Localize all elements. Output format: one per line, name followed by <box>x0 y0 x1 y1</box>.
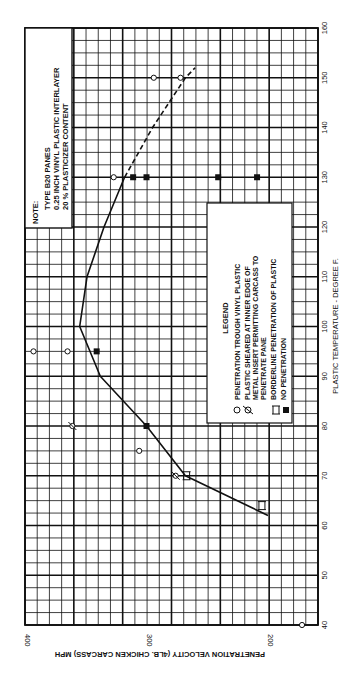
temperature-tick: 120 <box>320 221 329 234</box>
temperature-tick: 110 <box>320 271 329 283</box>
open-circle-point <box>65 349 70 354</box>
note-title: NOTE: <box>31 201 40 224</box>
legend-entry-1: PENETRATION TROUGH VINYL PLASTIC <box>234 264 241 400</box>
y-axis-label: PENETRATION VELOCITY (4LB. CHICKEN CARCA… <box>55 650 265 659</box>
temperature-tick: 160 <box>320 22 329 35</box>
filled-square-point <box>144 174 150 180</box>
note-line-3: 20 % PLASTICIZER CONTENT <box>61 103 70 210</box>
open-circle-point <box>151 75 156 80</box>
legend-title: LEGEND <box>221 302 230 334</box>
filled-square-point <box>94 348 100 354</box>
open-circle-point <box>31 349 36 354</box>
temperature-tick: 60 <box>320 521 329 529</box>
velocity-tick-labels: 200300400 <box>23 634 275 647</box>
note-line-1: TYPE B20 PANES <box>43 147 52 210</box>
temperature-tick: 80 <box>320 422 329 430</box>
open-circle-point <box>178 75 183 80</box>
filled-square-icon <box>283 407 289 413</box>
filled-square-point <box>254 174 260 180</box>
legend-entry-2a: PLASTIC SHEARED AT INNER EDGE OF <box>244 265 251 400</box>
filled-square-point <box>144 423 150 429</box>
filled-square-point <box>130 174 136 180</box>
temperature-tick: 150 <box>320 71 329 84</box>
legend-entry-2b: METAL INSERT PERMITTING CARCASS TO <box>252 255 259 400</box>
temperature-tick: 50 <box>320 571 329 579</box>
legend-box: LEGEND PENETRATION TROUGH VINYL PLASTIC … <box>207 203 292 423</box>
temperature-tick: 70 <box>320 472 329 480</box>
velocity-tick: 200 <box>266 634 275 647</box>
note-box: NOTE: TYPE B20 PANES 0.25 INCH VINYL PLA… <box>25 28 72 228</box>
temperature-tick: 90 <box>320 372 329 380</box>
penetration-velocity-chart: NOTE: TYPE B20 PANES 0.25 INCH VINYL PLA… <box>0 0 356 686</box>
velocity-tick: 300 <box>145 634 154 647</box>
temperature-tick-labels: 405060708090100110120130140150160 <box>320 22 329 629</box>
temperature-tick: 40 <box>320 621 329 629</box>
x-axis-label: PLASTIC TEMPERATURE - DEGREE F. <box>331 258 340 394</box>
temperature-tick: 140 <box>320 121 329 134</box>
open-circle-point <box>111 175 116 180</box>
temperature-tick: 100 <box>320 320 329 333</box>
open-circle-point <box>299 622 304 627</box>
note-line-2: 0.25 INCH VINYL PLASTIC INTERLAYER <box>52 67 61 210</box>
temperature-tick: 130 <box>320 171 329 184</box>
legend-entry-3: BORDERLINE PENETRATION OF PLASTIC <box>270 259 277 400</box>
legend-entry-2c: PENETRATE PANE <box>260 337 267 400</box>
borderline-point <box>258 502 266 510</box>
legend-entry-4: NO PENETRATION <box>280 338 287 400</box>
open-circle-point <box>137 448 142 453</box>
velocity-tick: 400 <box>23 634 32 647</box>
filled-square-point <box>215 174 221 180</box>
